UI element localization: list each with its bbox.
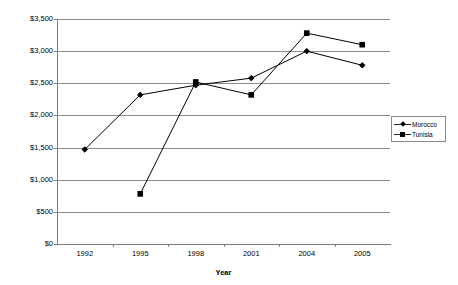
chart-legend: MoroccoTunisia [391,116,446,142]
line-chart: Value (in millions of US$) $3,500$3,000$… [0,0,458,285]
data-point-tunisia [304,31,309,36]
x-tick-label: 1992 [63,249,107,258]
series-layer [57,19,390,244]
data-point-tunisia [249,93,254,98]
legend-key-diamond-icon [394,120,411,129]
data-point-tunisia [360,42,365,47]
data-point-tunisia [138,192,143,197]
legend-key-square-icon [394,130,411,139]
legend-item-morocco[interactable]: Morocco [394,119,442,129]
x-tickmark [279,244,280,247]
data-point-morocco [249,75,254,80]
x-tick-label: 2005 [340,249,384,258]
x-tick-label: 2001 [229,249,273,258]
y-axis-tick-labels: $3,500$3,000$2,500$2,000$1,500$1,000$500… [0,0,53,285]
legend-key-marker [400,132,405,137]
y-tick-label: $2,000 [1,111,53,119]
x-axis-title: Year [57,268,390,277]
x-tick-label: 1998 [174,249,218,258]
legend-label: Tunisia [411,130,433,139]
x-tickmark [224,244,225,247]
y-tick-label: $2,500 [1,79,53,87]
x-tick-label: 1995 [118,249,162,258]
y-tick-label: $0 [1,240,53,248]
x-tick-label: 2004 [285,249,329,258]
plot-area [57,19,390,244]
y-tickmark [54,244,57,245]
x-tickmark [113,244,114,247]
y-tick-label: $3,000 [1,47,53,55]
x-tickmark [168,244,169,247]
series-line-morocco [85,51,363,149]
x-tickmark [335,244,336,247]
y-tick-label: $1,500 [1,144,53,152]
data-point-morocco [304,48,309,53]
legend-item-tunisia[interactable]: Tunisia [394,129,442,139]
data-point-morocco [360,63,365,68]
legend-key-marker [400,121,406,127]
y-tick-label: $1,000 [1,176,53,184]
x-axis-tick-labels: 199219951998200120042005 [0,249,458,263]
data-point-tunisia [193,80,198,85]
legend-label: Morocco [411,120,437,129]
y-tick-label: $3,500 [1,15,53,23]
y-tick-label: $500 [1,208,53,216]
